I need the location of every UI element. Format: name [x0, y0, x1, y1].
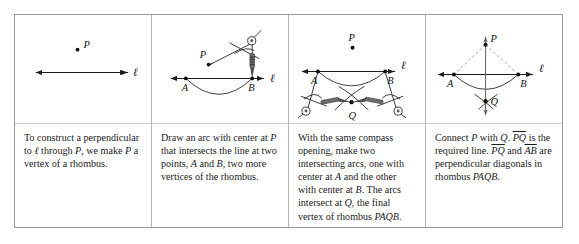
label-Q: Q	[491, 96, 499, 107]
panel-step-2: P A B ℓ Draw an arc with center at P tha…	[152, 15, 289, 227]
label-B: B	[520, 78, 527, 89]
point-P	[351, 46, 355, 50]
diagram-step-4: P A B Q ℓ	[426, 15, 562, 124]
point-A	[184, 77, 188, 81]
point-B	[516, 72, 520, 76]
caption-step-3: With the same compass opening, make two …	[289, 124, 425, 227]
label-P: P	[82, 39, 90, 50]
caption-step-1-text: To construct a perpendicular to ℓ throug…	[24, 131, 142, 170]
compass-left-knob-stem	[298, 114, 303, 118]
arc-center-B	[339, 86, 369, 110]
label-A: A	[446, 78, 454, 89]
compass-tool-left	[298, 72, 352, 118]
compass-tool-right	[352, 72, 406, 118]
caption-step-4: Connect P with Q. PQ is the required lin…	[426, 124, 562, 227]
diagram-step-1: P ℓ	[15, 15, 151, 124]
caption-step-2: Draw an arc with center at P that inters…	[152, 124, 288, 227]
label-B: B	[248, 82, 255, 93]
label-A: A	[181, 82, 189, 93]
caption-step-4-text: Connect P with Q. PQ is the required lin…	[435, 131, 553, 183]
rhombus-side-PA	[454, 45, 486, 75]
point-P	[484, 43, 488, 47]
panel-step-1: P ℓ To construct a perpendicular to ℓ th…	[15, 15, 152, 227]
compass-right-pen-barrel	[365, 97, 383, 104]
compass-hinge-center-icon	[250, 39, 253, 42]
label-P: P	[490, 33, 498, 44]
arc-AB	[186, 78, 252, 94]
point-B	[250, 77, 254, 81]
compass-knob-stem	[254, 30, 261, 37]
label-line-ell: ℓ	[401, 59, 406, 71]
compass-left-hinge-center-icon	[304, 110, 307, 113]
compass-pen-barrel	[250, 54, 255, 68]
compass-tool	[209, 30, 262, 78]
panel-step-3: P A B Q ℓ With the same compass opening,…	[289, 15, 426, 227]
diagram-step-3: P A B Q ℓ	[289, 15, 425, 124]
point-A	[452, 72, 456, 76]
caption-step-3-text: With the same compass opening, make two …	[298, 131, 416, 223]
point-P	[207, 63, 211, 67]
label-B: B	[387, 75, 394, 86]
four-step-construction-figure: P ℓ To construct a perpendicular to ℓ th…	[14, 14, 563, 228]
panel-step-4: P A B Q ℓ Connect P with Q. PQ is the re…	[426, 15, 562, 227]
point-B	[383, 69, 387, 73]
compass-right-hinge-center-icon	[397, 110, 400, 113]
caption-step-2-text: Draw an arc with center at P that inters…	[161, 131, 279, 183]
arc-AB	[318, 71, 385, 85]
figure-page: P ℓ To construct a perpendicular to ℓ th…	[0, 0, 579, 244]
point-P	[76, 48, 80, 52]
label-P: P	[199, 49, 207, 60]
diagram-step-2: P A B ℓ	[152, 15, 288, 124]
point-A	[316, 69, 320, 73]
point-Q	[349, 100, 353, 104]
compass-left-pen-barrel	[321, 97, 339, 104]
compass-pivot-leg	[209, 44, 250, 65]
rhombus-side-PB	[486, 45, 519, 75]
label-A: A	[310, 75, 318, 86]
point-Q	[483, 99, 487, 103]
compass-right-pen-tip	[352, 98, 367, 102]
label-P: P	[348, 32, 356, 43]
compass-left-pen-tip	[338, 98, 352, 102]
compass-right-knob-stem	[401, 114, 406, 118]
label-line-ell: ℓ	[133, 66, 138, 78]
label-line-ell: ℓ	[539, 62, 544, 74]
label-line-ell: ℓ	[270, 72, 275, 84]
caption-step-1: To construct a perpendicular to ℓ throug…	[15, 124, 151, 227]
label-Q: Q	[349, 110, 357, 121]
